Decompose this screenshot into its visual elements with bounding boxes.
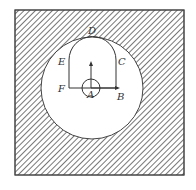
label-A: A — [86, 89, 94, 100]
label-E: E — [57, 56, 66, 67]
label-B: B — [116, 91, 124, 102]
label-C: C — [118, 56, 126, 67]
label-F: F — [57, 83, 66, 94]
diagram: D E C F A B — [0, 0, 196, 190]
hatched-square — [15, 10, 184, 175]
label-D: D — [87, 25, 96, 36]
